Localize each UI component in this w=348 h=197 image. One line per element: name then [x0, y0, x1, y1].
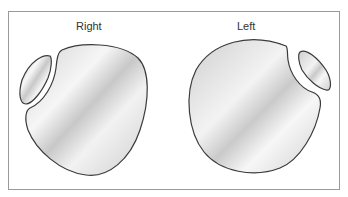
left-small-lobe [299, 51, 331, 90]
diagram-shapes [0, 0, 348, 197]
